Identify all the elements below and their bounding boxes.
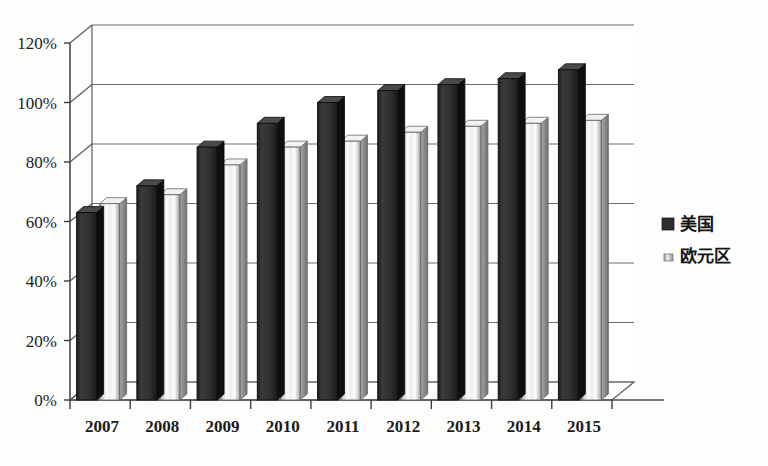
x-axis-tick-labels: 200720082009201020112012201320142015 <box>85 417 601 436</box>
bar-us-2012 <box>378 85 405 400</box>
gridline-depth-connector <box>70 85 92 103</box>
x-axis-tick-label: 2012 <box>386 417 420 436</box>
y-axis-tick-label: 20% <box>26 332 57 351</box>
x-axis-tick-label: 2008 <box>145 417 179 436</box>
gridline-depth-connector <box>70 25 92 43</box>
y-axis-tick-label: 100% <box>17 94 57 113</box>
x-axis-tick-label: 2010 <box>266 417 300 436</box>
bar-us-2008 <box>137 180 164 400</box>
legend-item-eurozone[interactable]: 欧元区 <box>664 246 731 266</box>
bar-us-2013 <box>438 79 465 400</box>
y-axis-tick-labels: 0%20%40%60%80%100%120% <box>17 34 57 410</box>
x-axis-tick-label: 2011 <box>326 417 359 436</box>
x-axis-tick-label: 2007 <box>85 417 120 436</box>
bar-us-2011 <box>318 97 345 401</box>
legend-item-us[interactable]: 美国 <box>662 214 714 234</box>
chart-canvas: 0%20%40%60%80%100%120% 20072008200920102… <box>0 0 768 466</box>
chart-legend: 美国欧元区 <box>662 214 731 266</box>
x-axis-tick-label: 2015 <box>567 417 601 436</box>
y-axis-tick-label: 0% <box>34 391 57 410</box>
bar-us-2007 <box>77 207 104 400</box>
bar-us-2014 <box>498 73 525 400</box>
legend-label: 美国 <box>680 214 714 234</box>
gridline-depth-connector <box>70 144 92 162</box>
bar-us-2009 <box>197 141 224 400</box>
legend-swatch-light-icon <box>664 254 673 261</box>
legend-label: 欧元区 <box>680 246 731 266</box>
x-axis-tick-label: 2009 <box>206 417 240 436</box>
x-axis-tick-label: 2014 <box>507 417 542 436</box>
y-axis-tick-label: 120% <box>17 34 57 53</box>
legend-swatch-dark-icon <box>662 218 674 230</box>
x-axis-tick-label: 2013 <box>446 417 480 436</box>
bar-chart: 0%20%40%60%80%100%120% 20072008200920102… <box>0 0 768 466</box>
y-axis-tick-label: 40% <box>26 272 57 291</box>
y-axis-tick-label: 80% <box>26 153 57 172</box>
bar-us-2015 <box>558 64 585 400</box>
y-axis-tick-label: 60% <box>26 213 57 232</box>
bar-us-2010 <box>257 117 284 400</box>
